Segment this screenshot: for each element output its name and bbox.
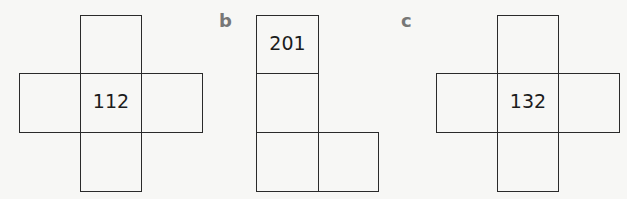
net-square-bottom — [80, 132, 142, 192]
net-square-middle — [256, 73, 319, 133]
net-square-right — [141, 73, 203, 133]
net-square-right — [558, 73, 620, 133]
net-square-left — [436, 73, 498, 133]
center-value: 112 — [80, 90, 142, 112]
figure-label: b — [219, 10, 232, 31]
net-square-left — [19, 73, 81, 133]
figure-label: c — [401, 10, 412, 31]
top-value: 201 — [256, 32, 319, 54]
net-square-bottom-right — [318, 132, 379, 192]
center-value: 132 — [497, 90, 559, 112]
net-square-top — [497, 15, 559, 74]
net-square-top — [80, 15, 142, 74]
net-square-bottom — [497, 132, 559, 192]
net-square-bottom-left — [256, 132, 319, 192]
